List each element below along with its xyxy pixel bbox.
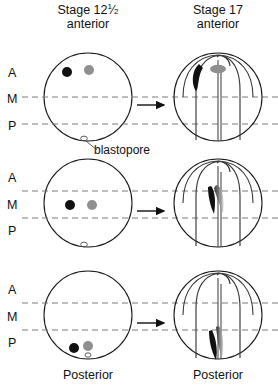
gray-marker-row2-right <box>214 185 224 213</box>
row-middle-group <box>22 159 278 247</box>
dark-marker-row2-right <box>208 186 215 214</box>
blastopore-marker-row2 <box>81 242 88 247</box>
row-anterior-group <box>22 53 278 150</box>
dark-marker-row3-left <box>69 343 79 353</box>
dark-marker-row1-right <box>194 65 202 90</box>
blastopore-marker-row1 <box>81 136 88 141</box>
dark-marker-row3-right <box>209 330 217 360</box>
gray-marker-row3-right <box>216 326 223 357</box>
dark-marker-row1-left <box>62 67 72 77</box>
blastopore-leader-line <box>86 141 97 150</box>
figure-canvas: Stage 121⁄2 anterior Stage 17 anterior A… <box>0 0 278 392</box>
gray-marker-row3-left <box>83 341 93 351</box>
blastopore-marker-row3 <box>85 353 91 357</box>
diagram-vector-layer <box>0 0 278 392</box>
dark-marker-row2-left <box>65 200 75 210</box>
gray-marker-row2-left <box>87 200 97 210</box>
gray-marker-row1-left <box>84 65 94 75</box>
gray-marker-row1-right <box>210 65 226 73</box>
row-posterior-group <box>22 271 278 360</box>
